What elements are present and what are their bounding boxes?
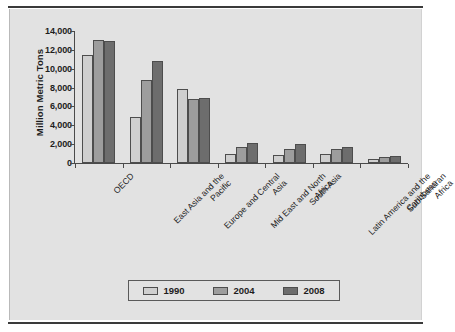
bottom-rule [8, 322, 423, 324]
x-tick-mark [265, 164, 266, 168]
x-tick-mark [75, 164, 76, 168]
bar-1990-1 [130, 117, 141, 163]
x-tick-mark [408, 164, 409, 168]
bar-1990-5 [320, 154, 331, 163]
x-tick-mark [360, 164, 361, 168]
legend-label-2008: 2008 [303, 285, 324, 296]
top-rule [8, 6, 423, 8]
bar-2004-6 [379, 157, 390, 163]
bar-group [225, 31, 258, 163]
bar-2004-0 [93, 40, 104, 163]
legend-label-1990: 1990 [163, 285, 184, 296]
x-tick-mark [123, 164, 124, 168]
y-tick-label: 8,000 [50, 83, 72, 93]
bar-2004-3 [236, 147, 247, 163]
plot-wrapper: Million Metric Tons 02,0004,0006,0008,00… [10, 9, 423, 320]
y-tick-label: 4,000 [50, 120, 72, 130]
y-tick-label: 2,000 [50, 139, 72, 149]
figure-panel: Million Metric Tons 02,0004,0006,0008,00… [9, 9, 422, 320]
y-tick-label: 6,000 [50, 101, 72, 111]
y-tick-label: 14,000 [45, 26, 72, 36]
plot-area [75, 31, 408, 163]
bar-group [273, 31, 306, 163]
chart-legend: 1990 2004 2008 [128, 280, 340, 301]
bar-1990-6 [368, 159, 379, 163]
bar-1990-4 [273, 155, 284, 163]
y-tick-label: 12,000 [45, 45, 72, 55]
x-axis-line [74, 163, 408, 164]
x-category-label: OECD [112, 171, 137, 196]
legend-item: 2004 [213, 285, 254, 296]
bar-2008-0 [104, 41, 115, 163]
legend-item: 2008 [283, 285, 324, 296]
bar-1990-2 [177, 89, 188, 163]
bar-2008-6 [390, 156, 401, 163]
legend-swatch-2008 [283, 287, 298, 295]
bar-group [82, 31, 115, 163]
bar-group [177, 31, 210, 163]
x-tick-mark [218, 164, 219, 168]
y-axis-tick-labels: 02,0004,0006,0008,00010,00012,00014,000 [28, 31, 72, 163]
bar-group [368, 31, 401, 163]
legend-label-2004: 2004 [233, 285, 254, 296]
bar-2008-1 [152, 61, 163, 163]
legend-item: 1990 [143, 285, 184, 296]
bar-2008-4 [295, 144, 306, 163]
legend-swatch-2004 [213, 287, 228, 295]
x-tick-mark [170, 164, 171, 168]
x-axis-category-labels: OECDEast Asia and thePacificEurope and C… [10, 169, 423, 269]
bar-1990-3 [225, 154, 236, 163]
bar-1990-0 [82, 55, 93, 163]
y-tick-label: 10,000 [45, 64, 72, 74]
bar-2004-5 [331, 149, 342, 163]
bar-2008-5 [342, 147, 353, 163]
bar-2004-2 [188, 99, 199, 163]
x-tick-mark [313, 164, 314, 168]
bar-2004-1 [141, 80, 152, 163]
bar-2004-4 [284, 149, 295, 163]
legend-swatch-1990 [143, 287, 158, 295]
bar-2008-3 [247, 143, 258, 163]
bar-group [130, 31, 163, 163]
bar-2008-2 [199, 98, 210, 163]
bar-group [320, 31, 353, 163]
